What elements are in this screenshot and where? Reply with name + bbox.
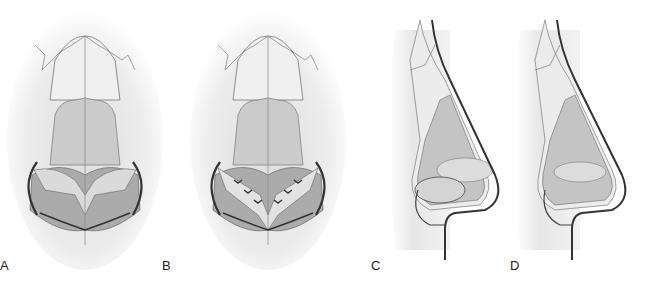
panel-label: A	[0, 258, 9, 273]
panel-c: C	[370, 0, 510, 281]
panel-d: D	[500, 0, 648, 281]
panel-label: B	[162, 258, 171, 273]
panel-label: D	[510, 258, 519, 273]
panel-b: B	[160, 0, 350, 281]
lateral-nose-illustration	[370, 0, 510, 281]
frontal-nose-illustration	[0, 0, 170, 281]
panel-label: C	[371, 258, 380, 273]
panel-a: A	[0, 0, 170, 281]
lateral-nose-corrected-illustration	[500, 0, 648, 281]
frontal-nose-sutured-illustration	[160, 0, 350, 281]
